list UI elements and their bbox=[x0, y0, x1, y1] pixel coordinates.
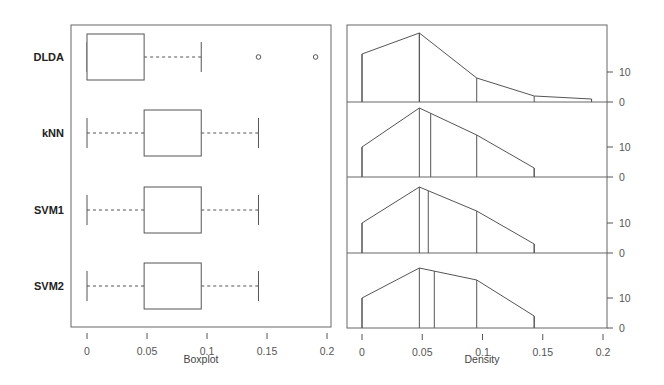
x-tick-label: 0 bbox=[84, 345, 90, 357]
box-iqr bbox=[144, 263, 201, 309]
boxplot-knn bbox=[87, 110, 258, 156]
density-strip-svm1 bbox=[347, 187, 607, 253]
density-strip-svm2 bbox=[362, 268, 534, 328]
group-label-svm2: SVM2 bbox=[34, 280, 64, 292]
density-outline bbox=[362, 187, 534, 253]
y-tick-label: 10 bbox=[619, 292, 631, 304]
y-tick-label: 0 bbox=[619, 96, 625, 108]
boxplot-panel: 00.050.10.150.2 Boxplot bbox=[71, 25, 334, 365]
box-iqr bbox=[144, 110, 201, 156]
density-strip-knn bbox=[347, 108, 607, 177]
density-outline bbox=[362, 108, 534, 177]
x-tick-label: 0.2 bbox=[320, 345, 335, 357]
y-tick-label: 0 bbox=[619, 171, 625, 183]
boxplot-dlda bbox=[87, 34, 318, 80]
density-x-label: Density bbox=[464, 353, 500, 365]
boxplot-x-label: Boxplot bbox=[183, 353, 218, 365]
x-tick-label: 0.05 bbox=[137, 345, 158, 357]
x-tick-label: 0.2 bbox=[596, 346, 611, 358]
y-tick-label: 10 bbox=[619, 217, 631, 229]
density-panel: 00.050.10.150.2 010010010010 Density bbox=[347, 25, 631, 365]
y-tick-label: 0 bbox=[619, 322, 625, 334]
density-y-axis: 010010010010 bbox=[607, 66, 631, 334]
box-iqr bbox=[87, 34, 144, 80]
density-strips bbox=[347, 33, 607, 328]
boxplot-svm2 bbox=[87, 263, 258, 309]
y-tick-label: 10 bbox=[619, 66, 631, 78]
boxplot-svm1 bbox=[87, 187, 258, 233]
outlier-point bbox=[313, 55, 318, 60]
group-label-knn: kNN bbox=[42, 127, 64, 139]
x-tick-label: 0.15 bbox=[257, 345, 278, 357]
boxplot-groups bbox=[87, 34, 318, 309]
x-tick-label: 0.05 bbox=[412, 346, 433, 358]
density-strip-dlda bbox=[347, 33, 607, 102]
group-label-dlda: DLDA bbox=[33, 51, 64, 63]
x-tick-label: 0.15 bbox=[533, 346, 554, 358]
box-iqr bbox=[144, 187, 201, 233]
y-tick-label: 10 bbox=[619, 141, 631, 153]
outlier-point bbox=[256, 55, 261, 60]
figure: 00.050.10.150.2 Boxplot 00.050.10.150.2 … bbox=[0, 0, 664, 385]
group-label-svm1: SVM1 bbox=[34, 204, 64, 216]
group-labels: DLDAkNNSVM1SVM2 bbox=[33, 51, 64, 292]
x-tick-label: 0 bbox=[359, 346, 365, 358]
density-outline bbox=[362, 268, 534, 328]
y-tick-label: 0 bbox=[619, 247, 625, 259]
